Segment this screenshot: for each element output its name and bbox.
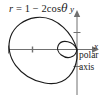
polar-graph-figure: r = 1 − 2cosθ y x polar axis: [0, 0, 109, 95]
polar-axis-label-line1: polar: [79, 51, 99, 61]
equation-equals: =: [13, 3, 24, 14]
theta-symbol: θ: [61, 2, 67, 14]
equation-label: r = 1 − 2cosθ: [9, 3, 68, 15]
equation-rhs: 1 − 2cos: [25, 3, 61, 14]
limacon-curve: [9, 17, 77, 83]
y-axis-label: y: [70, 5, 74, 14]
polar-axis-label-line2: axis: [79, 63, 94, 73]
